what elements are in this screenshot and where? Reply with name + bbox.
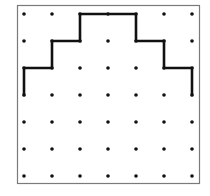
grid-dot [190,12,194,16]
grid-dot [50,93,54,97]
grid-dot [106,147,110,151]
grid-dot [78,120,82,124]
grid-dot [22,174,26,178]
grid-dot [22,120,26,124]
grid-dot [190,147,194,151]
grid-dot [162,147,166,151]
dot-grid-diagram [0,0,210,196]
grid-dot [162,12,166,16]
grid-dot [78,147,82,151]
staircase-path [24,14,192,95]
grid-dot [134,174,138,178]
grid-dot [190,39,194,43]
grid-dot [106,39,110,43]
grid-dots [22,12,194,178]
grid-dot [78,93,82,97]
grid-dot [162,93,166,97]
grid-dot [106,120,110,124]
grid-dot [22,12,26,16]
grid-dot [162,174,166,178]
grid-dot [134,120,138,124]
grid-dot [134,66,138,70]
grid-dot [106,93,110,97]
grid-dot [134,93,138,97]
grid-dot [190,174,194,178]
grid-dot [50,147,54,151]
grid-dot [22,147,26,151]
grid-dot [106,66,110,70]
grid-dot [106,174,110,178]
grid-dot [50,12,54,16]
grid-dot [134,147,138,151]
grid-dot [78,174,82,178]
grid-dot [22,39,26,43]
grid-dot [50,120,54,124]
grid-dot [78,66,82,70]
grid-dot [50,174,54,178]
grid-dot [162,120,166,124]
grid-dot [190,120,194,124]
